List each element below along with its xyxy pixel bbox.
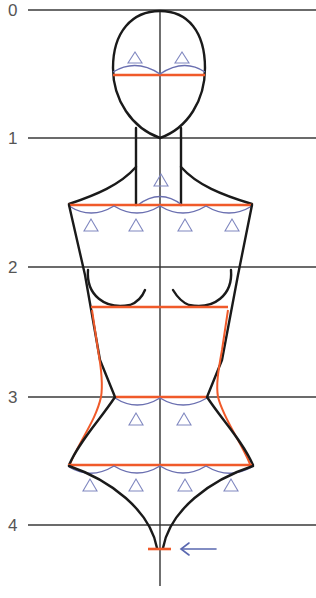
torso-right [207,205,252,397]
bust-right [173,270,231,306]
waist-arcs [115,398,207,405]
unit-grid [28,10,316,525]
contour-left [70,310,102,464]
unit-labels: 0 1 2 3 4 [8,1,17,535]
triangle-icon [178,479,192,491]
contour-right [217,310,250,464]
triangle-icon [129,219,143,231]
shoulder-right [181,167,252,204]
unit-label-3: 3 [8,388,17,407]
shoulder-left [69,167,136,204]
unit-label-2: 2 [8,258,17,277]
triangle-icon [154,174,168,186]
proportion-diagram: 0 1 2 3 4 [0,0,316,598]
bust-left [88,270,145,306]
leg-left [69,466,157,548]
left-arrow-icon [181,543,216,555]
head-arc [113,65,205,74]
leg-right [163,466,253,548]
triangle-icon [224,479,238,491]
triangle-icon [129,413,143,425]
torso-left [69,205,115,397]
hip-left [69,397,115,465]
unit-label-4: 4 [8,516,17,535]
triangle-icon [177,413,191,425]
triangle-icon [84,219,98,231]
triangle-icon [128,52,142,63]
triangle-icon [178,219,192,231]
triangle-icon [83,479,97,491]
triangle-icon [225,219,239,231]
triangle-icon [175,52,189,63]
unit-label-0: 0 [8,1,17,20]
triangle-icon [129,479,143,491]
unit-label-1: 1 [8,129,17,148]
